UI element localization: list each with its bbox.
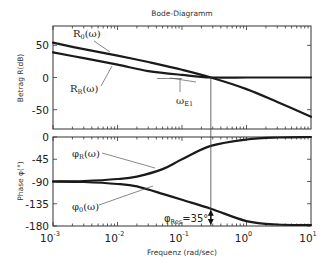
arrow-up-icon <box>208 210 214 216</box>
phase-y-tick-label: -90 <box>32 176 49 188</box>
x-tick-label: 100 <box>235 230 253 244</box>
phir-label: φR(ω) <box>72 148 100 161</box>
phase-y-tick-label: 0 <box>42 131 49 143</box>
phir-leader-line <box>102 153 155 168</box>
x-tick-label: 10-1 <box>169 230 189 244</box>
phir-phase-curve <box>53 137 311 182</box>
magnitude-y-tick-label: 0 <box>42 72 49 84</box>
magnitude-y-tick-label: -50 <box>32 104 49 116</box>
phase-y-tick-label: -45 <box>32 153 49 165</box>
rr-magnitude-curve <box>53 52 311 77</box>
r0-leader-line <box>94 41 110 52</box>
x-tick-label: 10-2 <box>105 230 125 244</box>
chart-title: Bode-Diagramm <box>151 9 212 18</box>
phase-y-tick-label: -180 <box>25 220 49 232</box>
magnitude-axis-title: Betrag R(dB) <box>16 54 25 103</box>
rr-label: RR(ω) <box>70 83 98 96</box>
omega-e1-label: ωE1 <box>176 95 193 108</box>
phase-y-tick-label: -135 <box>25 198 49 210</box>
bode-diagram: Bode-Diagramm Betrag R(dB) Phase φ(°) Fr… <box>0 0 333 269</box>
tangent-line-sloped <box>170 78 196 82</box>
phi0-leader-line <box>99 186 153 205</box>
rr-leader-line <box>101 66 112 86</box>
phi0-label: φ0(ω) <box>72 201 99 214</box>
phase-panel: 0-45-90-135-18010-310-210-1100101 <box>25 131 317 244</box>
x-tick-label: 101 <box>299 230 317 244</box>
x-tick-label: 10-3 <box>40 230 60 244</box>
phase-axis-title: Phase φ(°) <box>16 161 25 200</box>
bode-chart-svg: Bode-Diagramm Betrag R(dB) Phase φ(°) Fr… <box>0 0 333 269</box>
magnitude-y-tick-label: 50 <box>36 39 49 51</box>
magnitude-panel: 500-50 <box>32 26 311 129</box>
frequency-axis-title: Frequenz (rad/sec) <box>147 248 217 257</box>
r0-label: R0(ω) <box>73 28 101 41</box>
